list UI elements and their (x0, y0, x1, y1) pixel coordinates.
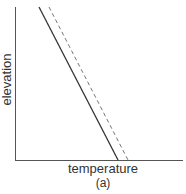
dashed-lapse-line (49, 7, 128, 160)
y-axis-label: elevation (0, 52, 14, 108)
x-axis-label: temperature (63, 161, 143, 176)
solid-lapse-line (39, 7, 118, 160)
figure-caption: (a) (88, 176, 118, 190)
